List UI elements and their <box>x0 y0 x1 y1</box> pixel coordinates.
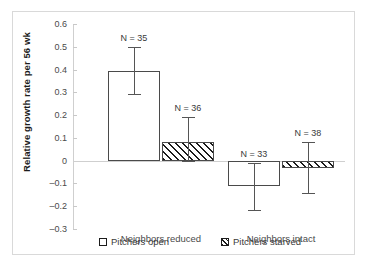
chart-figure: Relative growth rate per 56 wk 0.60.50.4… <box>12 11 355 255</box>
y-tick-label: –0.2 <box>33 201 67 211</box>
error-bar-stem <box>308 142 309 193</box>
y-tick-mark <box>73 92 77 93</box>
legend-item-hatched[interactable]: Pitchers starved <box>221 236 301 247</box>
y-tick-mark <box>73 229 77 230</box>
error-bar-cap-lower <box>128 94 141 95</box>
error-bar-stem <box>254 163 255 210</box>
error-bar-stem <box>188 117 189 161</box>
error-bar-cap-upper <box>248 163 261 164</box>
y-tick-mark <box>73 183 77 184</box>
error-bar-cap-lower <box>182 161 195 162</box>
y-tick-label: –0.1 <box>33 178 67 188</box>
y-tick-label: 0 <box>33 156 67 166</box>
legend-swatch-open-icon <box>99 238 107 246</box>
y-tick-label: –0.3 <box>33 224 67 234</box>
y-tick-mark <box>73 115 77 116</box>
y-tick-label: 0.1 <box>33 133 67 143</box>
y-tick-label: 0.6 <box>33 19 67 29</box>
legend-item-open[interactable]: Pitchers open <box>99 236 169 247</box>
sample-size-label: N = 36 <box>175 103 202 113</box>
error-bar-cap-lower <box>302 193 315 194</box>
legend-label: Pitchers open <box>111 236 169 247</box>
sample-size-label: N = 38 <box>295 128 322 138</box>
legend-swatch-hatched-icon <box>221 238 229 246</box>
y-tick-label: 0.2 <box>33 110 67 120</box>
y-tick-label: 0.5 <box>33 42 67 52</box>
error-bar-cap-lower <box>248 210 261 211</box>
error-bar-cap-upper <box>302 142 315 143</box>
y-tick-mark <box>73 206 77 207</box>
sample-size-label: N = 35 <box>121 33 148 43</box>
sample-size-label: N = 33 <box>241 149 268 159</box>
y-tick-label: 0.3 <box>33 87 67 97</box>
error-bar-cap-upper <box>182 117 195 118</box>
chart-legend: Pitchers openPitchers starved <box>73 236 345 252</box>
y-axis-line <box>73 24 74 229</box>
error-bar-cap-upper <box>128 47 141 48</box>
y-tick-label: 0.4 <box>33 65 67 75</box>
y-tick-mark <box>73 24 77 25</box>
y-tick-mark <box>73 47 77 48</box>
error-bar-stem <box>134 47 135 94</box>
y-tick-mark <box>73 70 77 71</box>
y-tick-mark <box>73 138 77 139</box>
plot-area: 0.60.50.40.30.20.10–0.1–0.2–0.3 N = 35N … <box>73 24 345 229</box>
legend-label: Pitchers starved <box>233 236 301 247</box>
